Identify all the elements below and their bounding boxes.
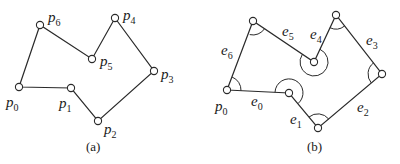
label-p3: p3 [160,66,174,85]
label-p5: p5 [99,53,113,72]
label-e2: e2 [357,99,369,118]
vertex-b-3 [378,70,385,77]
vertex-p2 [94,117,101,124]
label-e0: e0 [251,93,263,112]
angle-arc-p2 [309,114,329,119]
caption-a: (a) [86,139,100,154]
vertex-b-5 [310,58,317,65]
label-e4: e4 [310,26,322,45]
vertex-p0 [15,83,22,90]
vertex-b-4 [332,11,339,18]
label-p2: p2 [103,121,117,140]
label-p0: p0 [5,94,19,113]
vertex-p1 [67,84,74,91]
label-p1: p1 [58,95,72,114]
polygon-a-outline [19,18,154,121]
vertex-p6 [36,21,43,28]
angle-arc-p6 [250,29,265,35]
label-p6: p6 [47,9,61,28]
vertex-b-0 [223,86,230,93]
label-e6: e6 [221,42,233,61]
panel-a: p0 p1 p2 p3 p4 p5 p6 (a) [5,7,174,154]
vertex-b-6 [249,17,256,24]
angle-arc-p4 [330,26,345,29]
polygon-diagram: p0 p1 p2 p3 p4 p5 p6 (a) [0,0,400,164]
label-e3: e3 [366,32,378,51]
vertex-p4 [111,14,118,21]
vertex-p5 [88,55,95,62]
vertex-b-1 [285,89,292,96]
label-p4: p4 [122,7,136,26]
vertices-a [15,14,157,124]
caption-b: (b) [307,139,322,154]
label-b-p0: p0 [214,98,228,117]
label-e1: e1 [290,111,302,130]
vertex-p3 [150,67,157,74]
angle-arc-p0 [232,77,241,91]
panel-b: p0 e0 e1 e2 e3 e4 e5 e6 (b) [214,11,386,154]
angle-arc-p3 [368,63,373,83]
label-e5: e5 [282,23,294,42]
vertex-b-2 [314,124,321,131]
vertex-labels-a: p0 p1 p2 p3 p4 p5 p6 [5,7,174,140]
